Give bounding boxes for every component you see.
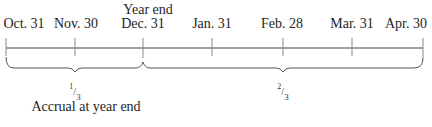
date-label-feb-28: Feb. 28: [261, 17, 303, 31]
date-label-nov-30: Nov. 30: [54, 17, 98, 31]
date-label-oct-31: Oct. 31: [3, 17, 44, 31]
brace-one-third: [6, 57, 143, 72]
brace-two-thirds: [143, 58, 423, 72]
date-label-apr-30: Apr. 30: [385, 17, 427, 31]
timeline-diagram: Year end Oct. 31 Nov. 30 Dec. 31 Jan. 31…: [0, 0, 432, 127]
year-end-label: Year end: [123, 3, 173, 17]
date-label-dec-31: Dec. 31: [121, 17, 165, 31]
date-label-jan-31: Jan. 31: [192, 17, 232, 31]
date-label-mar-31: Mar. 31: [330, 17, 374, 31]
accrual-caption: Accrual at year end: [31, 100, 140, 114]
fraction-one-third: 1/3: [69, 84, 80, 100]
fraction-two-thirds: 2/3: [277, 84, 288, 100]
